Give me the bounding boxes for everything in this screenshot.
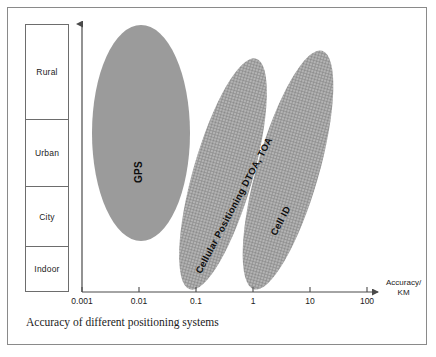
x-axis-title-line1: Accuracy/ — [386, 278, 421, 287]
x-axis-title: Accuracy/ KM — [386, 278, 421, 298]
category-label-indoor: Indoor — [34, 264, 59, 274]
category-label-rural: Rural — [36, 67, 57, 77]
category-cell-rural: Rural — [26, 25, 68, 119]
x-tick-label-5: 100 — [360, 296, 374, 306]
x-tick-label-1: 0.01 — [131, 296, 148, 306]
x-tick-label-4: 10 — [305, 296, 314, 306]
environment-category-column: Rural Urban City Indoor — [25, 24, 69, 292]
figure-caption: Accuracy of different positioning system… — [26, 316, 219, 328]
category-label-urban: Urban — [35, 148, 59, 158]
x-tick-label-2: 0.1 — [190, 296, 202, 306]
category-cell-city: City — [26, 186, 68, 246]
x-tick-label-3: 1 — [251, 296, 256, 306]
x-tick-label-0: 0.001 — [71, 296, 92, 306]
category-cell-urban: Urban — [26, 119, 68, 186]
label-gps: GPS — [133, 161, 144, 183]
category-cell-indoor: Indoor — [26, 246, 68, 291]
figure-root: Rural Urban City Indoor — [0, 0, 436, 357]
x-axis-title-line2: KM — [386, 288, 421, 298]
figure-frame — [7, 7, 427, 345]
category-label-city: City — [39, 212, 54, 222]
